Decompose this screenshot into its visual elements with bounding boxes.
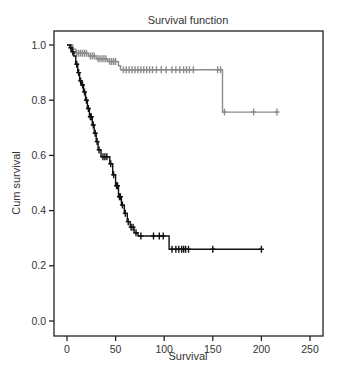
censor-mark — [76, 69, 81, 76]
y-tick-label: 0.6 — [31, 149, 46, 161]
censor-mark — [86, 105, 91, 112]
x-tick-label: 0 — [64, 343, 70, 355]
y-tick-label: 0.4 — [31, 204, 46, 216]
y-tick-label: 0.2 — [31, 259, 46, 271]
censor-mark — [259, 246, 264, 253]
x-tick-label: 200 — [253, 343, 271, 355]
series-group-gray — [67, 45, 279, 116]
y-tick-label: 1.0 — [31, 39, 46, 51]
censor-mark — [74, 61, 79, 68]
y-tick-label: 0.8 — [31, 94, 46, 106]
censor-mark — [154, 66, 159, 73]
censor-mark — [151, 232, 156, 239]
censor-mark — [274, 109, 279, 116]
x-axis-label: Survival — [168, 350, 207, 362]
series-layer — [67, 44, 279, 252]
censor-mark — [84, 97, 89, 104]
survival-step-line — [67, 45, 261, 249]
y-axis: 0.00.20.40.60.81.0 — [31, 39, 54, 327]
x-tick-label: 50 — [110, 343, 122, 355]
censor-mark — [93, 130, 98, 137]
x-tick-label: 250 — [301, 343, 319, 355]
chart-title: Survival function — [148, 14, 229, 26]
censor-mark — [138, 232, 143, 239]
series-group-black — [67, 44, 264, 252]
y-axis-label: Cum survival — [10, 151, 22, 215]
censor-mark — [210, 246, 215, 253]
censor-mark — [95, 138, 100, 145]
censor-mark — [186, 246, 191, 253]
survival-step-line — [67, 45, 277, 112]
censor-mark — [161, 232, 166, 239]
survival-chart: Survival function 0.00.20.40.60.81.0 050… — [0, 0, 338, 383]
censor-mark — [191, 66, 196, 73]
plot-frame — [54, 31, 323, 336]
censor-mark — [82, 88, 87, 95]
censor-mark — [251, 109, 256, 116]
censor-mark — [159, 66, 164, 73]
censor-mark — [91, 122, 96, 129]
y-tick-label: 0.0 — [31, 315, 46, 327]
censor-mark — [164, 66, 169, 73]
